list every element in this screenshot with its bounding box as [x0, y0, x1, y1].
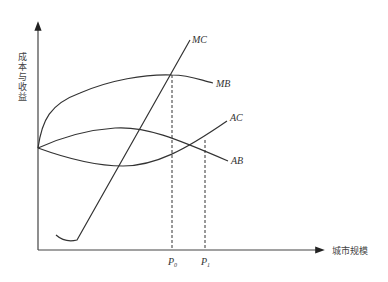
ab-curve: [38, 128, 228, 161]
x-axis-label: 城市规模: [332, 245, 368, 256]
mb-curve: [38, 75, 213, 148]
ac-label: AC: [229, 112, 243, 123]
ab-label: AB: [230, 155, 243, 166]
city-size-cost-benefit-diagram: 成本与收益 城市规模 MC MB AC AB P0 P1: [0, 0, 388, 282]
mc-curve: [56, 40, 190, 241]
mb-label: MB: [215, 78, 230, 89]
p0-label: P0: [167, 256, 177, 268]
y-axis-label: 成本与收益: [17, 51, 27, 102]
ac-curve: [38, 121, 227, 166]
mc-label: MC: [191, 34, 207, 45]
p1-label: P1: [200, 256, 210, 268]
